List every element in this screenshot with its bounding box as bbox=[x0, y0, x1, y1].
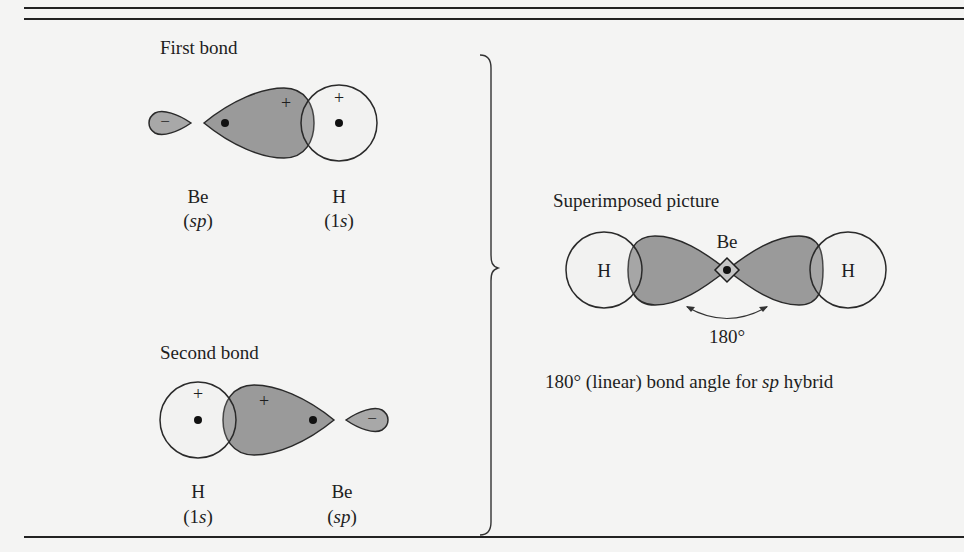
first-bond-title: First bond bbox=[160, 38, 238, 57]
be-sp-major-lobe bbox=[204, 88, 314, 158]
left-sp-lobe bbox=[628, 236, 727, 305]
second-bond-title: Second bond bbox=[160, 343, 259, 362]
orbital-diagram bbox=[0, 0, 964, 552]
superimposed-title: Superimposed picture bbox=[553, 191, 719, 210]
h-nucleus-dot bbox=[194, 416, 202, 424]
plus-sign-h: + bbox=[193, 385, 203, 403]
h-orbital-type: (1s) bbox=[324, 211, 354, 230]
h-left-label: H bbox=[597, 261, 611, 280]
orbital-type-text: sp bbox=[334, 506, 351, 527]
angle-arc bbox=[687, 307, 767, 319]
h-label: H bbox=[191, 482, 205, 501]
h-label: H bbox=[332, 187, 346, 206]
paren-close: ) bbox=[206, 506, 212, 527]
paren-close: ) bbox=[347, 210, 353, 231]
be-label: Be bbox=[331, 482, 352, 501]
paren-open: (1 bbox=[183, 506, 199, 527]
right-sp-lobe bbox=[727, 236, 823, 305]
h-orbital-type: (1s) bbox=[183, 507, 213, 526]
plus-sign-lobe: + bbox=[259, 392, 269, 410]
orbital-type-text: sp bbox=[190, 210, 207, 231]
plus-sign-h: + bbox=[334, 89, 344, 107]
be-nucleus-dot bbox=[309, 416, 317, 424]
curly-brace bbox=[480, 55, 498, 535]
be-orbital-type: (sp) bbox=[327, 507, 357, 526]
be-label: Be bbox=[187, 187, 208, 206]
caption-text-end: hybrid bbox=[779, 371, 833, 392]
be-center-label: Be bbox=[716, 232, 737, 251]
caption: 180° (linear) bond angle for sp hybrid bbox=[545, 372, 833, 391]
paren-close: ) bbox=[206, 210, 212, 231]
minus-sign: − bbox=[160, 113, 170, 130]
plus-sign-lobe: + bbox=[281, 94, 291, 112]
paren-close: ) bbox=[350, 506, 356, 527]
angle-label: 180° bbox=[709, 327, 745, 346]
h-nucleus-dot bbox=[335, 119, 343, 127]
be-sp-minor-lobe bbox=[149, 112, 191, 135]
be-nucleus-dot bbox=[723, 266, 731, 274]
minus-sign: − bbox=[367, 410, 377, 427]
be-nucleus-dot bbox=[221, 119, 229, 127]
be-orbital-type: (sp) bbox=[183, 211, 213, 230]
h-right-label: H bbox=[841, 261, 855, 280]
caption-text: 180° (linear) bond angle for bbox=[545, 371, 762, 392]
caption-hybrid-type: sp bbox=[762, 371, 779, 392]
paren-open: (1 bbox=[324, 210, 340, 231]
be-sp-major-lobe bbox=[223, 385, 334, 455]
